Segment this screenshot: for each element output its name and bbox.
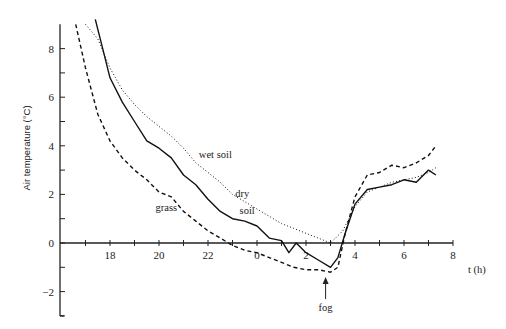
x-axis-title: t (h) xyxy=(468,264,486,276)
x-tick-label: 6 xyxy=(401,249,407,261)
series-wet-soil xyxy=(86,24,436,243)
annotation-soil: soil xyxy=(240,205,255,216)
x-tick-label: 18 xyxy=(105,249,117,261)
y-axis-title: Air temperature (°C) xyxy=(21,105,32,190)
y-tick-label: 6 xyxy=(49,91,55,103)
x-tick-label: 0 xyxy=(254,249,260,261)
fog-arrow-head-icon xyxy=(323,277,329,284)
annotation-grass: grass xyxy=(156,202,178,213)
annotation-fog: fog xyxy=(319,302,334,313)
chart: −20246818202202468Air temperature (°C)t … xyxy=(0,0,506,329)
y-tick-label: 8 xyxy=(49,43,55,55)
axes: −20246818202202468Air temperature (°C)t … xyxy=(21,24,486,316)
annotation-dry: dry xyxy=(235,188,250,199)
y-tick-label: 0 xyxy=(49,237,55,249)
x-tick-label: 4 xyxy=(352,249,358,261)
series-grass xyxy=(76,24,436,272)
y-tick-label: −2 xyxy=(42,286,54,298)
y-tick-label: 4 xyxy=(49,140,55,152)
y-tick-label: 2 xyxy=(49,188,55,200)
x-tick-label: 20 xyxy=(154,249,166,261)
annotation-wet-soil: wet soil xyxy=(199,149,232,160)
series-dry-soil xyxy=(95,19,436,267)
x-tick-label: 22 xyxy=(203,249,214,261)
x-tick-label: 8 xyxy=(450,249,456,261)
series-lines xyxy=(76,19,436,272)
